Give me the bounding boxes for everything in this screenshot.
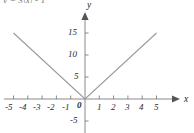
y-axis-ticks xyxy=(85,33,89,121)
x-tick-label: -1 xyxy=(62,103,70,112)
origin-label: 0 xyxy=(77,101,82,110)
x-tick-label: 4 xyxy=(139,103,144,112)
x-tick-label: -5 xyxy=(5,103,13,112)
x-axis-label: x xyxy=(184,94,188,104)
y-tick-label: 5 xyxy=(74,72,79,81)
graph-figure: y = 3|x| - 1 xyxy=(0,0,194,133)
x-tick-label: 5 xyxy=(154,103,159,112)
coordinate-plane xyxy=(0,0,194,133)
y-axis-arrow-icon xyxy=(81,12,88,20)
y-axis-label: y xyxy=(87,0,91,10)
x-axis-arrow-icon xyxy=(172,95,180,102)
y-tick-label: 15 xyxy=(68,28,77,37)
x-tick-label: -2 xyxy=(47,103,55,112)
x-tick-label: -4 xyxy=(19,103,27,112)
y-tick-label: 10 xyxy=(68,50,77,59)
x-tick-label: 3 xyxy=(125,103,130,112)
y-tick-label: -5 xyxy=(70,116,78,125)
x-tick-label: 1 xyxy=(97,103,102,112)
x-tick-label: 2 xyxy=(111,103,116,112)
x-tick-label: -3 xyxy=(33,103,41,112)
